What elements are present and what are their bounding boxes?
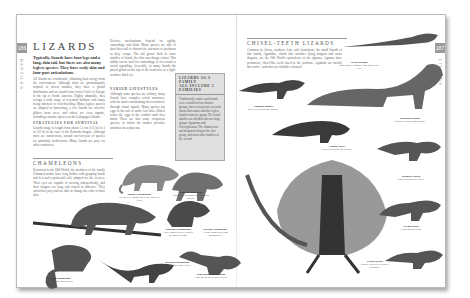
section-heading-chameleons: CHAMELEONS <box>33 160 82 166</box>
caption-lizard-2: Common agamaMales develop bright colours… <box>245 105 281 111</box>
subheading-survival: STRATEGIES FOR SURVIVAL <box>33 121 99 125</box>
body-paragraph-3: Defence mechanisms depend on agility, ca… <box>110 39 176 85</box>
caption-chameleon-7: Flap-necked chameleonFlaps on the neck c… <box>189 273 233 279</box>
caption-frilled-lizard: Frilled lizardRaises a neck frill to sca… <box>359 260 391 270</box>
agama-on-branch <box>239 73 309 103</box>
rainbow-lizard-illustration <box>385 245 445 271</box>
bearded-dragon-illustration <box>379 195 445 223</box>
body-paragraph-1: All lizards are ectothermic, obtaining h… <box>33 77 105 119</box>
side-label-left: REPTILES <box>19 59 24 90</box>
caption-chameleon-6: Graceful chameleonWidespread across Afri… <box>163 261 191 267</box>
chameleon-curled-tail <box>37 242 97 292</box>
section-heading-chisel-teeth: CHISEL-TEETH LIZARDS <box>247 40 335 46</box>
caption-lizard-6: Flying lizardGlides on skin flaps. <box>385 225 437 231</box>
page-number-tab-left: 186 <box>17 43 27 53</box>
caption-lizard-1: Water dragonSemi-aquatic agamid from Sou… <box>337 61 381 71</box>
flying-lizard-illustration <box>342 29 442 51</box>
caption-chameleon-2: Panther chameleonMales vary in colour de… <box>169 191 213 201</box>
caption-chameleon-1: Meller's chameleonThe Meller's chameleon… <box>117 193 161 203</box>
agama-illustration <box>377 135 443 163</box>
caption-lizard-5: Rainbow lizardRocky habitats in Africa. <box>385 175 437 181</box>
section-rule <box>33 158 113 159</box>
subheading-lifestyles: VARIED LIFESTYLES <box>110 87 158 91</box>
chameleons-text: Restricted to the Old World, the members… <box>33 168 105 198</box>
caption-lizard-3: Thorny devilCovered in spines for defenc… <box>317 145 357 151</box>
body-paragraph-4: Although some species are solitary, many… <box>110 92 165 152</box>
info-box: LIZARDS AS A FAMILYALL INCLUDE 5 FAMILIE… <box>175 73 225 161</box>
caption-chameleon-5: Veiled chameleonA tall casque on the hea… <box>37 277 83 283</box>
body-paragraph-2: Lizards range in length from about 1.5 c… <box>33 126 105 152</box>
chameleon-slender <box>99 255 179 285</box>
caption-lizard-4: Bearded dragonInflates a spiny throat po… <box>382 117 438 123</box>
caption-chameleon-3: Jackson's chameleonThree-horned species,… <box>163 228 193 238</box>
page-title: LIZARDS <box>33 40 97 52</box>
intro-text: Typically, lizards have four legs and a … <box>33 55 107 75</box>
caption-chameleon-4: Parson's chameleonA large chameleon from… <box>197 228 233 238</box>
info-box-title: LIZARDS AS A FAMILYALL INCLUDE 5 FAMILIE… <box>176 74 224 95</box>
right-section-rule <box>247 38 347 39</box>
thorny-lizard-illustration <box>272 115 352 145</box>
info-box-body: Traditionally, snakes and lizards were c… <box>176 95 224 143</box>
book-spread: 186 REPTILES LIZARDS Typically, lizards … <box>16 14 446 288</box>
